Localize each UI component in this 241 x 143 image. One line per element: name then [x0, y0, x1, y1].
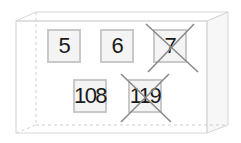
card-label: 5 — [58, 35, 69, 57]
box-hidden-edge-diagonal — [16, 125, 36, 133]
cross-out-icon — [121, 74, 173, 122]
box-top-face — [16, 12, 228, 21]
cross-out-icon — [146, 24, 198, 72]
number-card-108: 108 — [73, 79, 107, 113]
number-card-5: 5 — [47, 29, 81, 63]
number-card-119-crossed: 119 — [128, 79, 162, 113]
number-card-6: 6 — [100, 29, 134, 63]
box-right-face — [207, 12, 228, 133]
card-label: 108 — [74, 85, 106, 107]
diagram-stage: 5 6 7 108 119 — [0, 0, 241, 143]
card-label: 6 — [111, 35, 122, 57]
number-card-7-crossed: 7 — [153, 29, 187, 63]
